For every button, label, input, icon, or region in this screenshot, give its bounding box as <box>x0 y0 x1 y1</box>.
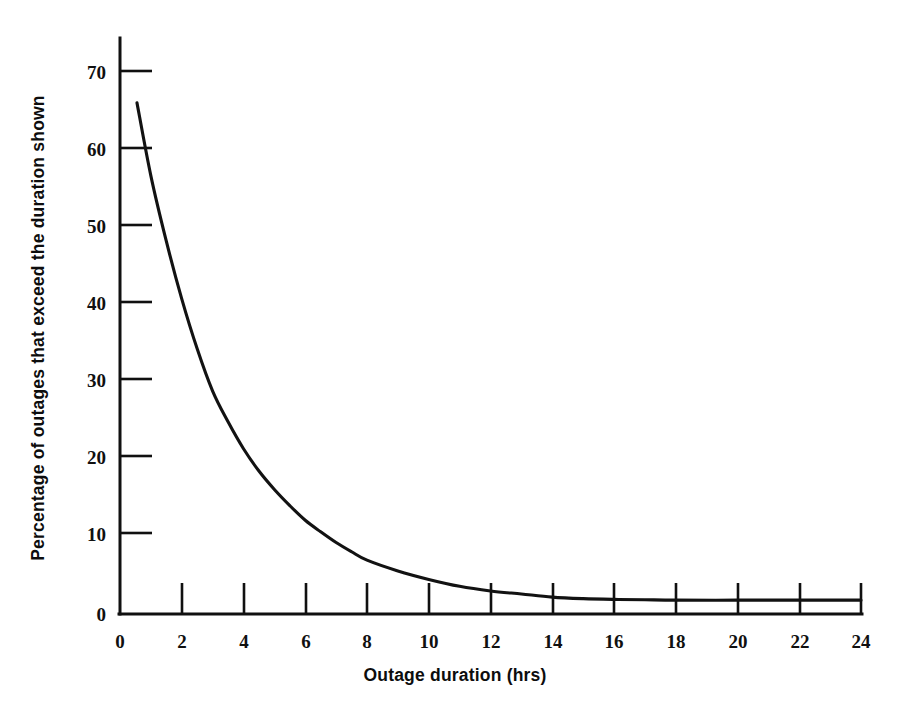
y-tick-label-40: 40 <box>87 293 106 314</box>
y-tick-label-10: 10 <box>87 524 106 545</box>
x-tick-label-22: 22 <box>791 631 810 652</box>
x-tick-label-8: 8 <box>362 631 372 652</box>
y-tick-label-60: 60 <box>87 139 106 160</box>
x-tick-label-16: 16 <box>605 631 624 652</box>
y-tick-labels: 70 60 50 40 30 20 10 0 <box>87 62 106 625</box>
x-tick-label-18: 18 <box>667 631 686 652</box>
x-tick-label-12: 12 <box>482 631 501 652</box>
chart-canvas: 70 60 50 40 30 20 10 0 0 2 4 6 8 10 12 1… <box>0 0 907 706</box>
chart-figure: 70 60 50 40 30 20 10 0 0 2 4 6 8 10 12 1… <box>0 0 907 706</box>
x-tick-label-10: 10 <box>420 631 439 652</box>
y-tick-label-50: 50 <box>87 216 106 237</box>
data-series-line <box>137 103 861 600</box>
y-axis-ticks <box>121 71 152 533</box>
x-tick-label-0: 0 <box>115 631 125 652</box>
x-tick-label-4: 4 <box>239 631 249 652</box>
x-axis-ticks <box>182 583 861 613</box>
x-tick-label-24: 24 <box>852 631 872 652</box>
x-tick-labels: 0 2 4 6 8 10 12 14 16 18 20 22 24 <box>115 631 871 652</box>
x-axis-title: Outage duration (hrs) <box>363 665 546 685</box>
y-tick-label-0: 0 <box>97 604 107 625</box>
x-tick-label-20: 20 <box>729 631 748 652</box>
y-tick-label-30: 30 <box>87 370 106 391</box>
y-axis-title: Percentage of outages that exceed the du… <box>28 95 48 561</box>
x-tick-label-6: 6 <box>301 631 311 652</box>
x-tick-label-14: 14 <box>544 631 564 652</box>
y-tick-label-70: 70 <box>87 62 106 83</box>
x-tick-label-2: 2 <box>177 631 187 652</box>
y-tick-label-20: 20 <box>87 447 106 468</box>
